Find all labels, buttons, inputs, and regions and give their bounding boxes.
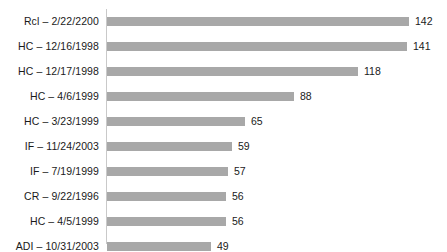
- category-label: HC – 12/17/1998: [0, 59, 99, 84]
- bar-row: IF – 11/24/200359: [0, 134, 447, 159]
- bar-value-label: 59: [238, 134, 250, 159]
- category-label: HC – 3/23/1999: [0, 109, 99, 134]
- bar-row: HC – 3/23/199965: [0, 109, 447, 134]
- bar-row: HC – 12/17/1998118: [0, 59, 447, 84]
- bar-row: Rcl – 2/22/2200142: [0, 9, 447, 34]
- bar-value-label: 88: [300, 84, 312, 109]
- category-label: ADI – 10/31/2003: [0, 234, 99, 252]
- category-label: CR – 9/22/1996: [0, 184, 99, 209]
- bar-value-label: 65: [251, 109, 263, 134]
- bar-value-label: 141: [413, 34, 431, 59]
- bar: [107, 217, 226, 226]
- bar-value-label: 49: [217, 234, 229, 252]
- category-label: HC – 4/6/1999: [0, 84, 99, 109]
- bar-row: IF – 7/19/199957: [0, 159, 447, 184]
- bar-row: HC – 4/6/199988: [0, 84, 447, 109]
- horizontal-bar-chart: Rcl – 2/22/2200142HC – 12/16/1998141HC –…: [0, 0, 447, 252]
- bar-value-label: 118: [364, 59, 381, 84]
- category-label: IF – 11/24/2003: [0, 134, 99, 159]
- bar: [107, 17, 409, 26]
- bar: [107, 67, 358, 76]
- category-label: Rcl – 2/22/2200: [0, 9, 99, 34]
- bar-row: HC – 4/5/199956: [0, 209, 447, 234]
- bar-row: CR – 9/22/199656: [0, 184, 447, 209]
- bar: [107, 167, 228, 176]
- plot-area: Rcl – 2/22/2200142HC – 12/16/1998141HC –…: [0, 0, 447, 252]
- category-label: IF – 7/19/1999: [0, 159, 99, 184]
- category-label: HC – 12/16/1998: [0, 34, 99, 59]
- bar-value-label: 56: [232, 209, 244, 234]
- bar-value-label: 142: [415, 9, 433, 34]
- bar-rows-container: Rcl – 2/22/2200142HC – 12/16/1998141HC –…: [0, 0, 447, 252]
- bar: [107, 92, 294, 101]
- bar-value-label: 56: [232, 184, 244, 209]
- bar-row: ADI – 10/31/200349: [0, 234, 447, 252]
- bar: [107, 142, 232, 151]
- bar-value-label: 57: [234, 159, 246, 184]
- category-label: HC – 4/5/1999: [0, 209, 99, 234]
- bar: [107, 192, 226, 201]
- bar: [107, 42, 407, 51]
- bar-row: HC – 12/16/1998141: [0, 34, 447, 59]
- bar: [107, 117, 245, 126]
- bar: [107, 242, 211, 251]
